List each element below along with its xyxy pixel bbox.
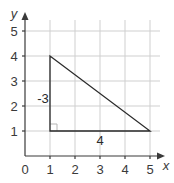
right-angle-marker: [50, 124, 57, 131]
x-axis: [25, 153, 165, 160]
side-label-vertical: -3: [37, 91, 49, 106]
y-axis-arrow-icon: [22, 12, 29, 20]
x-axis-label: x: [162, 158, 170, 173]
y-tick-1: 1: [10, 124, 17, 139]
y-tick-4: 4: [10, 49, 17, 64]
y-tick-3: 3: [10, 74, 17, 89]
x-tick-3: 3: [96, 162, 103, 177]
x-tick-0: 0: [21, 162, 28, 177]
y-tick-5: 5: [10, 24, 17, 39]
x-tick-2: 2: [71, 162, 78, 177]
y-axis-label: y: [10, 6, 19, 21]
coordinate-plane: 0 1 2 3 4 5 1 2 3 4 5 x y -3 4: [0, 0, 174, 183]
y-tick-2: 2: [10, 99, 17, 114]
x-tick-5: 5: [146, 162, 153, 177]
x-tick-4: 4: [121, 162, 128, 177]
side-label-horizontal: 4: [96, 133, 103, 148]
x-tick-1: 1: [46, 162, 53, 177]
y-axis: [22, 12, 29, 156]
